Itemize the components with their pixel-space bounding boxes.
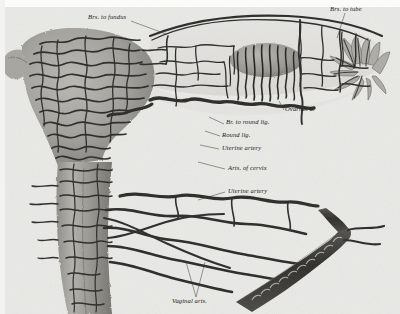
anatomical-plate: Brs. to fundus Brs. to tube Ovarian a. B… (0, 0, 400, 314)
label-brs-to-tube: Brs. to tube (330, 6, 362, 13)
label-br-to-round-lig: Br. to round lig. (226, 119, 269, 126)
anatomy-illustration (0, 0, 400, 314)
label-vaginal-arts: Vaginal arts. (172, 298, 207, 305)
label-round-lig: Round lig. (222, 132, 250, 139)
paper-left-margin (0, 0, 5, 314)
label-uterine-artery-2: Uterine artery (228, 188, 267, 195)
paper-grain (0, 0, 400, 314)
label-brs-to-fundus: Brs. to fundus (88, 14, 126, 21)
label-uterine-artery-1: Uterine artery (222, 145, 261, 152)
label-arts-of-cervix: Arts. of cervix (228, 165, 267, 172)
label-ovarian-a: Ovarian a. (285, 106, 315, 113)
